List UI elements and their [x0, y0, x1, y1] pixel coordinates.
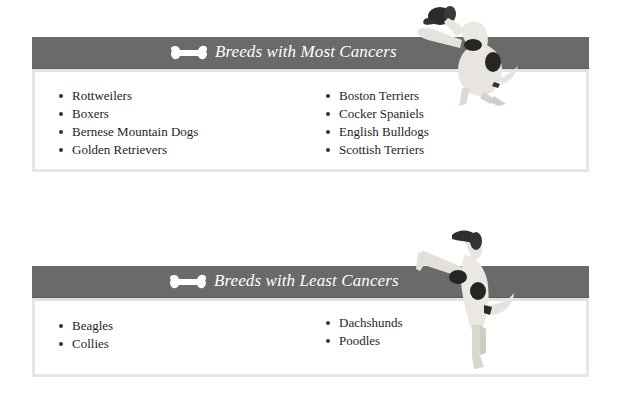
list-item: Beagles	[59, 317, 113, 335]
list-item: Dachshunds	[326, 314, 403, 332]
list-item: Rottweilers	[59, 87, 198, 105]
bone-icon	[169, 274, 207, 290]
bone-icon	[170, 45, 208, 61]
least-cancers-left-list: Beagles Collies	[59, 317, 113, 353]
most-cancers-left-list: Rottweilers Boxers Bernese Mountain Dogs…	[59, 87, 198, 159]
list-item: Scottish Terriers	[326, 141, 429, 159]
sitting-dog-illustration	[410, 0, 525, 110]
standing-dog-illustration	[414, 225, 534, 375]
least-cancers-title: Breeds with Least Cancers	[214, 271, 399, 291]
list-item: Poodles	[326, 332, 403, 350]
least-cancers-section: Beagles Collies Dachshunds Poodles Breed…	[32, 266, 589, 378]
most-cancers-section: Rottweilers Boxers Bernese Mountain Dogs…	[32, 37, 589, 173]
list-item: Bernese Mountain Dogs	[59, 123, 198, 141]
least-cancers-right-list: Dachshunds Poodles	[326, 314, 403, 350]
list-item: Golden Retrievers	[59, 141, 198, 159]
most-cancers-title: Breeds with Most Cancers	[215, 42, 397, 62]
list-item: Collies	[59, 335, 113, 353]
list-item: English Bulldogs	[326, 123, 429, 141]
list-item: Boxers	[59, 105, 198, 123]
